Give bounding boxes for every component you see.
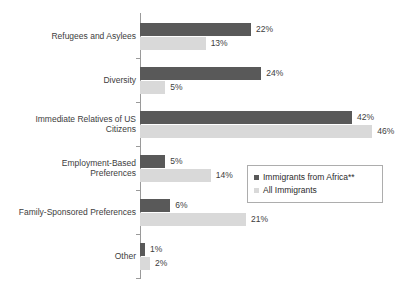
bar-value-label: 6% xyxy=(175,201,187,210)
bar-all-immigrants xyxy=(140,257,150,270)
bar-value-label: 1% xyxy=(150,245,162,254)
bar-value-label: 13% xyxy=(211,39,228,48)
chart-legend: Immigrants from Africa** All Immigrants xyxy=(247,165,383,203)
legend-label: Immigrants from Africa** xyxy=(263,171,355,184)
legend-item-immigrants-from-africa: Immigrants from Africa** xyxy=(254,171,374,184)
bar-row: 21% xyxy=(140,213,268,226)
axis-tick xyxy=(136,234,140,235)
bar-immigrants-from-africa xyxy=(140,243,145,256)
bar-all-immigrants xyxy=(140,81,165,94)
bar-immigrants-from-africa xyxy=(140,23,251,36)
bar-row: 5% xyxy=(140,155,183,168)
bar-row: 42% xyxy=(140,111,374,124)
bar-row: 46% xyxy=(140,125,394,138)
bar-row: 2% xyxy=(140,257,167,270)
bar-immigrants-from-africa xyxy=(140,111,352,124)
legend-swatch-icon xyxy=(254,188,259,193)
category-label: Family-Sponsored Preferences xyxy=(4,207,136,217)
bar-all-immigrants xyxy=(140,213,246,226)
bar-row: 24% xyxy=(140,67,283,80)
bar-value-label: 5% xyxy=(170,83,182,92)
axis-tick xyxy=(136,58,140,59)
category-label: Immediate Relatives of USCitizens xyxy=(4,114,136,134)
legend-label: All Immigrants xyxy=(263,184,317,197)
bar-value-label: 22% xyxy=(256,25,273,34)
bar-value-label: 21% xyxy=(251,215,268,224)
category-label: Refugees and Asylees xyxy=(4,31,136,41)
bar-value-label: 2% xyxy=(155,259,167,268)
axis-tick xyxy=(136,146,140,147)
bar-all-immigrants xyxy=(140,169,211,182)
legend-item-all-immigrants: All Immigrants xyxy=(254,184,374,197)
legend-swatch-icon xyxy=(254,175,259,180)
bar-immigrants-from-africa xyxy=(140,67,261,80)
bar-all-immigrants xyxy=(140,125,372,138)
bar-all-immigrants xyxy=(140,37,206,50)
category-axis-labels: Refugees and AsyleesDiversityImmediate R… xyxy=(0,14,136,278)
bar-row: 5% xyxy=(140,81,183,94)
bar-value-label: 42% xyxy=(357,113,374,122)
bar-value-label: 14% xyxy=(216,171,233,180)
bar-value-label: 46% xyxy=(377,127,394,136)
axis-tick xyxy=(136,102,140,103)
category-label: Diversity xyxy=(4,75,136,85)
bar-row: 6% xyxy=(140,199,188,212)
axis-tick xyxy=(136,278,140,279)
bar-immigrants-from-africa xyxy=(140,155,165,168)
category-label: Other xyxy=(4,251,136,261)
bar-row: 13% xyxy=(140,37,228,50)
bar-immigrants-from-africa xyxy=(140,199,170,212)
bar-value-label: 5% xyxy=(170,157,182,166)
bar-row: 22% xyxy=(140,23,273,36)
axis-tick xyxy=(136,190,140,191)
bar-row: 14% xyxy=(140,169,233,182)
bar-value-label: 24% xyxy=(266,69,283,78)
bar-chart: Refugees and AsyleesDiversityImmediate R… xyxy=(0,0,418,288)
plot-area: 22%13%24%5%42%46%5%14%6%21%1%2% xyxy=(140,14,412,278)
bar-row: 1% xyxy=(140,243,162,256)
category-label: Employment-BasedPreferences xyxy=(4,158,136,178)
